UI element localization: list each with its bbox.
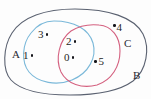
element-dot-5 xyxy=(94,60,97,63)
set-label-a: A xyxy=(12,49,20,60)
element-dot-4 xyxy=(113,24,116,27)
element-value-0: 0 xyxy=(64,52,70,63)
element-point-5: 5 xyxy=(94,56,104,67)
element-value-2: 2 xyxy=(66,36,72,47)
set-label-b: B xyxy=(133,70,140,81)
element-dot-2 xyxy=(74,40,77,43)
element-value-5: 5 xyxy=(99,56,105,67)
venn-diagram-figure: A C B 3 1 2 0 5 4 xyxy=(0,0,151,99)
element-value-4: 4 xyxy=(117,22,123,33)
element-dot-0 xyxy=(72,56,75,59)
element-point-0: 0 xyxy=(64,52,74,63)
element-dot-1 xyxy=(31,54,34,57)
element-point-4: 4 xyxy=(113,22,122,33)
element-point-1: 1 xyxy=(23,50,33,61)
element-point-3: 3 xyxy=(38,29,48,40)
element-value-3: 3 xyxy=(38,29,44,40)
set-label-c: C xyxy=(124,38,131,49)
element-point-2: 2 xyxy=(66,36,76,47)
element-dot-3 xyxy=(46,33,49,36)
element-value-1: 1 xyxy=(23,50,29,61)
